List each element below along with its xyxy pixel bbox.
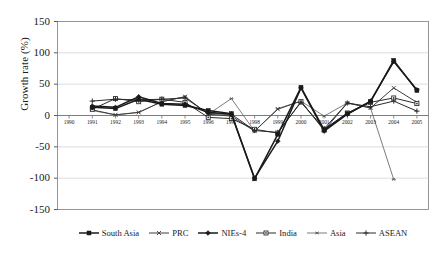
chart-legend: South AsiaPRCNIEs-4IndiaAsiaASEAN xyxy=(57,228,428,238)
legend-item-south-asia[interactable]: South Asia xyxy=(78,228,139,238)
legend-item-india[interactable]: India xyxy=(255,228,297,238)
legend-marker-icon xyxy=(255,228,277,238)
y-tick-label: 0 xyxy=(10,110,50,121)
legend-marker-icon xyxy=(306,228,328,238)
y-tick-label: -100 xyxy=(10,172,50,183)
y-tick-label: 50 xyxy=(10,78,50,89)
y-tick-label: -150 xyxy=(10,204,50,215)
x-tick-label: 2005 xyxy=(405,120,429,125)
legend-item-asean[interactable]: ASEAN xyxy=(355,228,408,238)
x-tick-label: 1994 xyxy=(150,120,174,125)
legend-item-label: NIEs-4 xyxy=(221,229,246,238)
x-tick-label: 2004 xyxy=(382,120,406,125)
legend-item-nies-4[interactable]: NIEs-4 xyxy=(197,228,246,238)
x-tick-label: 2001 xyxy=(312,120,336,125)
legend-item-label: ASEAN xyxy=(379,229,408,238)
x-tick-label: 1990 xyxy=(57,120,81,125)
y-tick-label: 150 xyxy=(10,16,50,27)
x-tick-label: 1999 xyxy=(266,120,290,125)
x-tick-label: 2000 xyxy=(289,120,313,125)
legend-marker-icon xyxy=(197,228,219,238)
legend-item-label: South Asia xyxy=(102,229,139,238)
y-tick-label: -50 xyxy=(10,141,50,152)
x-tick-label: 1993 xyxy=(127,120,151,125)
legend-item-prc[interactable]: PRC xyxy=(148,228,188,238)
growth-rate-line-chart: Growth rate (%) 150100500-50-100-150 199… xyxy=(0,0,441,253)
x-tick-label: 2002 xyxy=(335,120,359,125)
legend-item-label: Asia xyxy=(330,229,346,238)
legend-item-label: India xyxy=(279,229,297,238)
x-tick-label: 1998 xyxy=(243,120,267,125)
x-tick-label: 1997 xyxy=(219,120,243,125)
legend-marker-icon xyxy=(355,228,377,238)
x-tick-label: 2003 xyxy=(359,120,383,125)
legend-item-label: PRC xyxy=(172,229,188,238)
legend-marker-icon xyxy=(148,228,170,238)
legend-marker-icon xyxy=(78,228,100,238)
x-tick-label: 1995 xyxy=(173,120,197,125)
x-tick-label: 1992 xyxy=(103,120,127,125)
legend-item-asia[interactable]: Asia xyxy=(306,228,346,238)
x-tick-label: 1996 xyxy=(196,120,220,125)
y-tick-label: 100 xyxy=(10,47,50,58)
chart-plot-svg xyxy=(0,0,441,253)
x-tick-label: 1991 xyxy=(80,120,104,125)
